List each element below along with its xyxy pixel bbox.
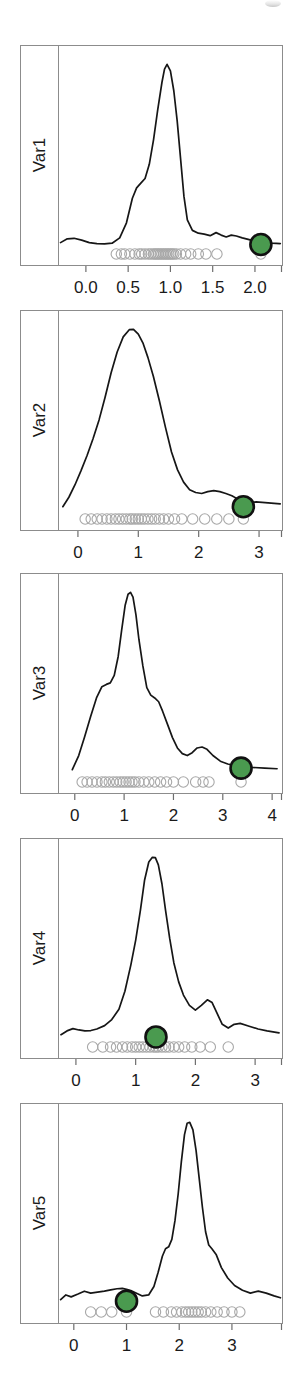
highlight-point[interactable] xyxy=(233,496,254,517)
density-curve xyxy=(61,857,279,1034)
density-panel-var4: Var40123 xyxy=(0,838,299,1108)
x-tick-label: 2 xyxy=(174,1336,183,1355)
density-curve xyxy=(72,592,277,769)
x-tick-label: 2 xyxy=(194,543,203,562)
rug-point xyxy=(111,1042,121,1052)
highlight-point[interactable] xyxy=(116,1291,137,1312)
highlight-point[interactable] xyxy=(231,758,252,779)
x-tick-label: 0 xyxy=(70,806,79,825)
panel-strip-label: Var1 xyxy=(30,138,49,173)
density-panel-var5: Var50123 xyxy=(0,1103,299,1373)
rug-plot xyxy=(85,1307,245,1317)
panel-canvas: Var301234 xyxy=(0,573,299,843)
x-tick-label: 3 xyxy=(254,543,263,562)
x-axis: 0.00.51.01.52.0 xyxy=(74,266,281,297)
x-tick-label: 1 xyxy=(122,1336,131,1355)
rug-plot xyxy=(111,249,266,259)
panel-strip-label: Var5 xyxy=(30,1196,49,1231)
x-tick-label: 0.5 xyxy=(116,278,140,297)
density-curve xyxy=(61,1122,281,1299)
density-curve xyxy=(61,64,281,244)
rug-point xyxy=(96,1307,106,1317)
density-curve xyxy=(63,329,280,506)
rug-point xyxy=(105,1042,115,1052)
x-tick-label: 0 xyxy=(71,1071,80,1090)
panel-canvas: Var40123 xyxy=(0,838,299,1108)
rug-point xyxy=(178,777,188,787)
x-tick-label: 1 xyxy=(134,543,143,562)
x-tick-label: 1 xyxy=(119,806,128,825)
panel-strip-label: Var3 xyxy=(30,666,49,701)
x-axis: 0123 xyxy=(73,531,281,562)
rug-point xyxy=(187,514,197,524)
panel-canvas: Var20123 xyxy=(0,310,299,580)
rug-point xyxy=(224,514,234,524)
rug-point xyxy=(201,249,211,259)
x-tick-label: 3 xyxy=(218,806,227,825)
x-axis: 0123 xyxy=(69,1324,281,1355)
rug-plot xyxy=(80,514,249,524)
x-tick-label: 2 xyxy=(169,806,178,825)
x-tick-label: 1.5 xyxy=(201,278,225,297)
rug-point xyxy=(212,514,222,524)
rug-point xyxy=(80,514,90,524)
x-tick-label: 0 xyxy=(69,1336,78,1355)
x-tick-label: 0 xyxy=(73,543,82,562)
rug-point xyxy=(168,777,178,787)
panel-canvas: Var50123 xyxy=(0,1103,299,1373)
top-edge-artifact xyxy=(265,0,281,7)
panel-strip-label: Var2 xyxy=(30,403,49,438)
x-tick-label: 2.0 xyxy=(243,278,267,297)
rug-point xyxy=(205,1042,215,1052)
rug-point xyxy=(200,514,210,524)
density-panel-var2: Var20123 xyxy=(0,310,299,580)
rug-point xyxy=(107,1307,117,1317)
panel-border xyxy=(21,839,283,1059)
rug-point xyxy=(212,249,222,259)
rug-point xyxy=(85,1307,95,1317)
x-tick-label: 3 xyxy=(227,1336,236,1355)
rug-point xyxy=(198,777,208,787)
x-axis: 01234 xyxy=(70,794,281,825)
x-tick-label: 2 xyxy=(191,1071,200,1090)
x-tick-label: 3 xyxy=(250,1071,259,1090)
highlight-point[interactable] xyxy=(250,234,271,255)
x-tick-label: 1 xyxy=(131,1071,140,1090)
density-panel-figure: Var10.00.51.01.52.0Var20123Var301234Var4… xyxy=(0,0,299,1386)
rug-point xyxy=(204,777,214,787)
x-axis: 0123 xyxy=(71,1059,281,1090)
panel-canvas: Var10.00.51.01.52.0 xyxy=(0,45,299,315)
rug-point xyxy=(223,1042,233,1052)
rug-point xyxy=(177,514,187,524)
density-panel-var3: Var301234 xyxy=(0,573,299,843)
rug-point xyxy=(235,1307,245,1317)
rug-point xyxy=(86,514,96,524)
x-tick-label: 0.0 xyxy=(74,278,98,297)
panel-strip-label: Var4 xyxy=(30,931,49,966)
rug-point xyxy=(87,1042,97,1052)
rug-plot xyxy=(77,777,246,787)
rug-point xyxy=(155,777,165,787)
rug-point xyxy=(150,777,160,787)
highlight-point[interactable] xyxy=(145,1026,166,1047)
density-panel-var1: Var10.00.51.01.52.0 xyxy=(0,45,299,315)
x-tick-label: 1.0 xyxy=(159,278,183,297)
x-tick-label: 4 xyxy=(267,806,276,825)
